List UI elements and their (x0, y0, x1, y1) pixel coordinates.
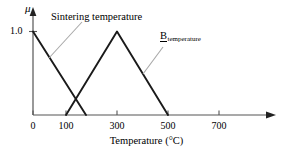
annotation-sintering-temperature: Sintering temperature (51, 12, 142, 23)
annotation-b-subscript: temperature (168, 35, 201, 43)
x-tick-label-500: 500 (153, 121, 183, 131)
y-tick-label-1.0: 1.0 (10, 26, 23, 36)
y-axis (30, 7, 37, 115)
annotation-b-temperature: Btemperature (160, 31, 201, 43)
x-axis-title: Temperature (°C) (0, 136, 293, 147)
x-tick-label-300: 300 (102, 121, 132, 131)
x-tick-label-100: 100 (51, 121, 81, 131)
y-axis-symbol: μ (25, 3, 31, 14)
chart-figure: μ 1.0 0 100 300 500 700 Temperature (°C)… (0, 0, 293, 153)
series-sintering-temperature (33, 32, 86, 116)
annotation-b-symbol: B (160, 30, 167, 42)
series-b-temperature (66, 32, 168, 116)
x-axis (33, 111, 276, 118)
x-axis-ticks (33, 111, 219, 116)
leader-line-sintering (49, 22, 82, 58)
leader-line-b (143, 47, 163, 74)
x-tick-label-0: 0 (18, 121, 48, 131)
x-tick-label-700: 700 (204, 121, 234, 131)
